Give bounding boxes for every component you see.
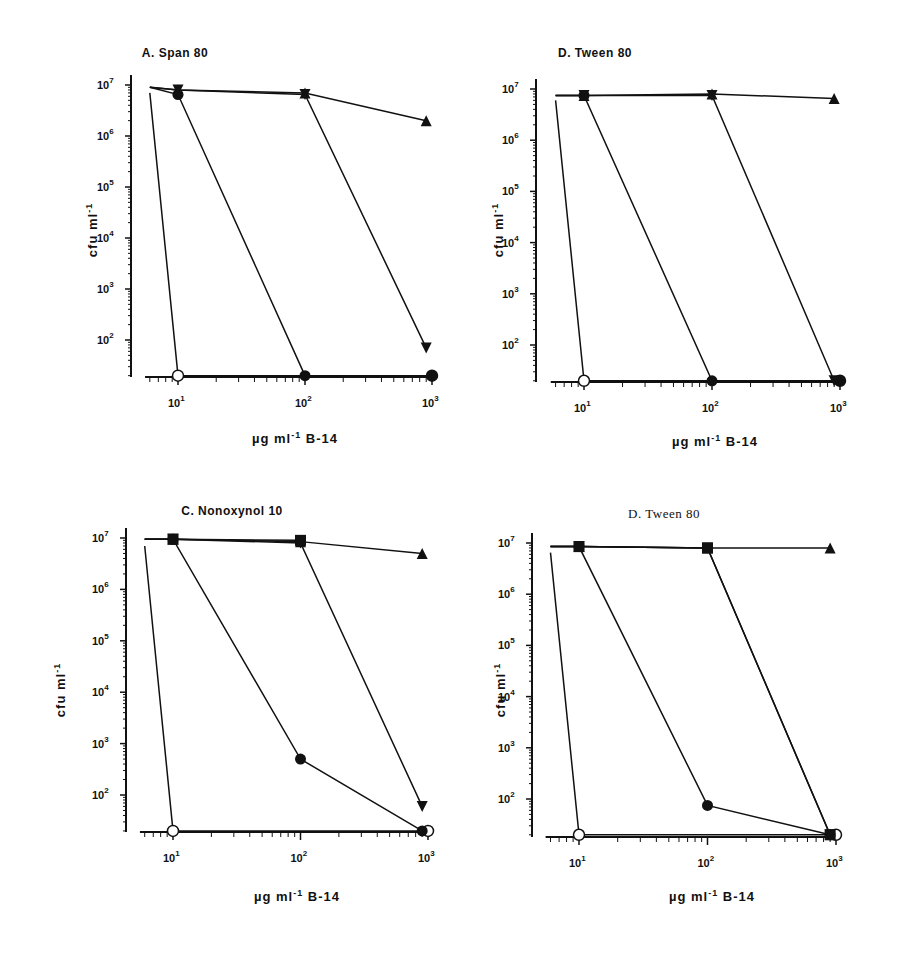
panel-d: D. Tween 80 cfu ml-1 µg ml-1 B-14 102103…	[0, 0, 440, 460]
svg-text:105: 105	[498, 636, 515, 651]
series-circle-open	[550, 553, 841, 841]
series-circle-filled	[550, 541, 835, 840]
svg-text:102: 102	[498, 790, 515, 805]
svg-text:106: 106	[498, 585, 515, 600]
plot-area: 102103104105106107101102103	[0, 0, 898, 964]
svg-text:107: 107	[498, 534, 515, 549]
series-square-filled	[550, 541, 835, 840]
svg-text:103: 103	[498, 739, 515, 754]
marker-filled-circle-icon	[702, 800, 713, 811]
axes: 102103104105106107101102103	[498, 533, 843, 869]
series-triangle-up	[550, 541, 835, 553]
svg-text:102: 102	[698, 854, 715, 869]
series-triangle-down	[550, 541, 835, 840]
marker-open-circle-icon	[574, 829, 585, 840]
svg-text:104: 104	[498, 688, 515, 703]
svg-text:101: 101	[569, 854, 586, 869]
svg-text:103: 103	[826, 854, 843, 869]
